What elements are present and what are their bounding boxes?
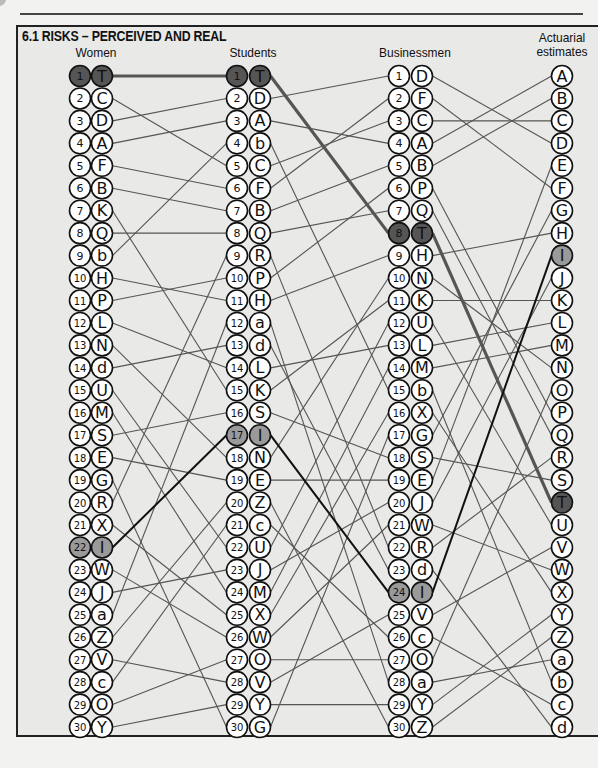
item-label: c [418,628,427,647]
item-label: H [416,246,428,265]
item-label: G [96,471,108,490]
rank-number: 25 [74,610,87,621]
rank-number: 29 [74,700,87,711]
connector-line [113,166,227,188]
connector-line [113,211,227,391]
item-label: J [419,493,425,512]
rank-number: 17 [393,430,406,441]
connector-line [271,278,389,458]
item-label: F [255,179,264,198]
rank-number: 19 [393,475,406,486]
rank-number: 30 [74,722,87,733]
rank-number: 5 [396,160,403,173]
connector-line [271,301,389,391]
item-label: L [256,358,265,377]
item-label: S [417,448,427,467]
connector-line [113,345,227,457]
connector-line [271,121,389,143]
rank-number: 4 [234,137,241,150]
item-label: F [557,179,566,198]
connector-line [113,570,227,592]
item-label: D [556,134,568,153]
item-label: O [416,650,429,669]
rank-number: 7 [396,205,403,218]
item-label: B [557,89,568,108]
rank-number: 28 [74,677,87,688]
rank-number: 19 [74,475,87,486]
rank-number: 12 [74,318,87,329]
item-label: Y [556,605,567,624]
highlight-line-T [433,233,552,502]
item-label: K [557,291,568,310]
rank-number: 7 [77,205,84,218]
item-label: N [96,336,108,355]
item-label: B [255,201,266,220]
rank-number: 10 [231,273,244,284]
item-label: W [252,628,268,647]
item-label: M [95,403,109,422]
rank-number: 7 [234,205,241,218]
item-label: H [556,224,568,243]
rank-number: 6 [396,182,403,195]
rank-number: 12 [231,318,244,329]
rank-number: 9 [396,250,403,263]
item-label: P [557,403,567,422]
rank-number: 15 [231,385,244,396]
item-label: W [94,560,110,579]
connector-line [433,525,552,570]
item-label: A [255,111,266,130]
item-label: D [254,89,266,108]
item-label: Q [254,224,267,243]
connector-line [113,413,227,593]
item-label: F [417,89,426,108]
item-label: C [416,111,427,130]
connector-line [113,98,227,120]
item-label: V [557,538,568,557]
item-label: L [98,313,107,332]
rank-number: 18 [393,453,406,464]
item-label: N [416,269,428,288]
rank-number: 19 [231,475,244,486]
item-label: a [557,650,567,669]
connector-line [271,98,389,188]
item-label: Y [416,695,427,714]
rank-number: 5 [234,160,241,173]
item-label: C [96,89,107,108]
connector-line [271,166,389,211]
rank-number: 2 [234,92,241,105]
rank-number: 22 [393,542,406,553]
item-label: Z [97,628,108,647]
item-label: P [417,179,427,198]
rank-number: 20 [231,498,244,509]
connector-line [433,458,552,548]
rank-number: 6 [234,182,241,195]
item-label: B [417,156,428,175]
rank-number: 18 [74,453,87,464]
item-label: I [258,426,263,445]
item-label: U [556,516,568,535]
item-label: K [417,291,428,310]
item-label: D [416,67,428,86]
rank-number: 20 [74,498,87,509]
item-label: b [557,673,567,692]
item-label: A [97,134,108,153]
rank-number: 1 [234,70,241,83]
item-label: Z [255,493,266,512]
connector-line [433,547,552,614]
rank-number: 23 [393,565,406,576]
item-label: I [420,583,425,602]
item-label: T [254,67,265,86]
item-label: E [97,448,107,467]
rank-number: 11 [393,296,406,307]
rank-number: 13 [393,340,406,351]
item-label: U [254,538,266,557]
rank-number: 16 [231,408,244,419]
connector-line [113,413,227,435]
item-label: M [253,583,267,602]
item-label: V [255,673,266,692]
rank-number: 29 [231,700,244,711]
item-label: X [255,605,266,624]
item-label: E [255,471,265,490]
rank-number: 30 [393,722,406,733]
item-label: X [97,516,108,535]
